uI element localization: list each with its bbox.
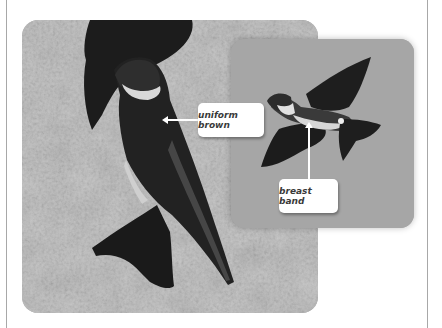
arrow-left-icon [162,116,168,124]
left-margin-rule [6,0,7,328]
rump-patch [338,118,344,124]
callout-uniform-brown: uniform brown [198,103,264,137]
arrow-up-icon [305,122,313,128]
pointer-line-breast-band [308,127,310,179]
right-margin-rule [427,0,428,328]
callout-label: breast band [279,186,338,206]
callout-label: uniform brown [198,110,264,130]
pointer-line-uniform-brown [166,119,198,121]
callout-breast-band: breast band [279,179,338,213]
